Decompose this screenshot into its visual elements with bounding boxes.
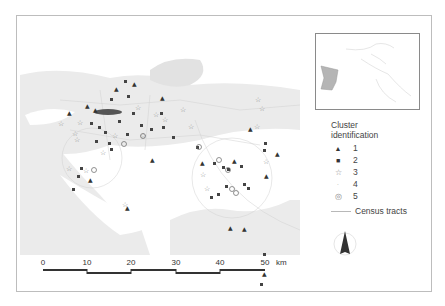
inset-map bbox=[316, 34, 419, 109]
square-icon: ■ bbox=[331, 157, 345, 164]
svg-text:☆: ☆ bbox=[135, 104, 141, 112]
locator-inset bbox=[315, 33, 420, 110]
scale-tick-0: 0 bbox=[41, 258, 45, 267]
svg-text:☆: ☆ bbox=[188, 123, 194, 131]
svg-text:☆: ☆ bbox=[77, 119, 83, 127]
line-icon bbox=[331, 211, 351, 212]
svg-text:▲: ▲ bbox=[200, 159, 205, 166]
dot-icon: · bbox=[331, 181, 345, 188]
legend-item-2: ■ 2 bbox=[331, 155, 358, 165]
legend-item-3: ☆ 3 bbox=[331, 167, 358, 177]
north-arrow-icon bbox=[333, 228, 357, 258]
svg-text:▲: ▲ bbox=[132, 80, 137, 87]
scale-tick-20: 20 bbox=[127, 258, 136, 267]
svg-text:☆: ☆ bbox=[122, 201, 128, 209]
scale-tick-50: 50 bbox=[261, 258, 270, 267]
scale-tick-10: 10 bbox=[83, 258, 92, 267]
svg-text:☆: ☆ bbox=[259, 105, 265, 113]
svg-text:▲: ▲ bbox=[150, 156, 155, 163]
legend-title: Cluster identification bbox=[331, 120, 378, 140]
svg-text:☆: ☆ bbox=[100, 149, 106, 157]
legend-label: 1 bbox=[353, 143, 358, 153]
svg-text:☆: ☆ bbox=[263, 158, 269, 166]
scale-unit: km bbox=[276, 258, 287, 267]
legend-item-5: ◎ 5 bbox=[331, 191, 358, 201]
svg-text:☆: ☆ bbox=[162, 116, 168, 124]
svg-text:▲: ▲ bbox=[85, 102, 90, 109]
legend-label: 5 bbox=[353, 191, 358, 201]
legend-label: 3 bbox=[353, 167, 358, 177]
scale-bar bbox=[43, 269, 265, 274]
svg-text:☆: ☆ bbox=[204, 185, 210, 193]
legend-label: Census tracts bbox=[355, 206, 407, 216]
circle-target-icon: ◎ bbox=[331, 192, 345, 201]
legend-item-census-tracts: Census tracts bbox=[331, 206, 407, 216]
svg-text:☆: ☆ bbox=[153, 111, 159, 119]
svg-text:▲: ▲ bbox=[67, 109, 72, 116]
legend-item-1: ▲ 1 bbox=[331, 143, 358, 153]
svg-text:▲: ▲ bbox=[264, 172, 269, 179]
svg-text:☆: ☆ bbox=[112, 132, 118, 140]
scale-tick-40: 40 bbox=[216, 258, 225, 267]
svg-text:☆: ☆ bbox=[83, 167, 89, 175]
svg-text:☆: ☆ bbox=[254, 123, 260, 131]
svg-text:▲: ▲ bbox=[262, 270, 267, 277]
star-icon: ☆ bbox=[331, 168, 345, 177]
svg-text:☆: ☆ bbox=[74, 136, 80, 144]
svg-text:▲: ▲ bbox=[248, 125, 253, 132]
svg-text:▲: ▲ bbox=[232, 157, 237, 164]
svg-text:▲: ▲ bbox=[93, 106, 98, 113]
legend-title-line1: Cluster bbox=[331, 120, 378, 130]
svg-text:▲: ▲ bbox=[114, 85, 119, 92]
scale-tick-30: 30 bbox=[172, 258, 181, 267]
legend-title-line2: identification bbox=[331, 130, 378, 140]
legend-item-4: · 4 bbox=[331, 179, 358, 189]
triangle-icon: ▲ bbox=[331, 145, 345, 152]
svg-text:☆: ☆ bbox=[66, 165, 72, 173]
svg-text:▲: ▲ bbox=[242, 225, 247, 232]
svg-text:▲: ▲ bbox=[88, 176, 93, 183]
svg-text:☆: ☆ bbox=[58, 120, 64, 128]
svg-text:☆: ☆ bbox=[200, 171, 206, 179]
legend-label: 4 bbox=[353, 179, 358, 189]
svg-text:☆: ☆ bbox=[180, 106, 186, 114]
svg-text:▲: ▲ bbox=[275, 150, 280, 157]
svg-text:▲: ▲ bbox=[160, 94, 165, 101]
svg-text:▲: ▲ bbox=[228, 224, 233, 231]
legend-label: 2 bbox=[353, 155, 358, 165]
svg-text:☆: ☆ bbox=[255, 96, 261, 104]
